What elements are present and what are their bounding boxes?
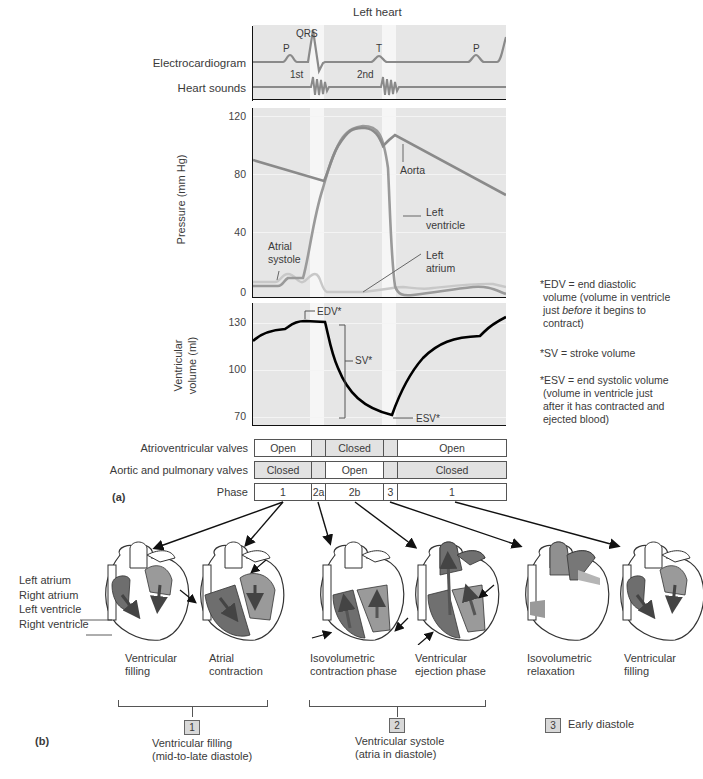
edv-note-line-1: *EDV = end diastolic — [540, 278, 703, 291]
panel-b-label: (b) — [35, 735, 49, 748]
phase-cell-1b: 1 — [398, 484, 506, 500]
bracket-stem-2 — [397, 707, 398, 717]
av-cell-phase2b: Closed — [326, 440, 384, 456]
bracket-stem-1 — [192, 707, 193, 717]
caption-isovolumetric-contraction: Isovolumetriccontraction phase — [310, 652, 397, 678]
heart-isovolumetric-relaxation — [526, 542, 609, 640]
phase-1-description: Ventricular filling(mid-to-late diastole… — [152, 737, 252, 763]
atrial-systole-label-2: systole — [268, 253, 301, 266]
caption-line: contraction phase — [310, 665, 397, 678]
bracket-phase-1 — [118, 700, 268, 707]
av-cell-phase2a — [312, 440, 326, 456]
volume-x-axis — [252, 425, 506, 426]
caption-line: relaxation — [527, 665, 592, 678]
esv-note-line-1: *ESV = end systolic volume — [540, 374, 703, 387]
volume-y-label-2: volume (ml) — [186, 326, 199, 406]
sl-cell-phase1b: Closed — [398, 462, 506, 478]
phase-3-description: Early diastole — [568, 718, 634, 731]
pressure-tick-80: 80 — [216, 168, 246, 180]
ecg-row-label: Electrocardiogram — [153, 57, 246, 70]
pressure-traces — [253, 108, 506, 297]
ecg-p2-wave-label: P — [473, 42, 480, 55]
caption-line: Ventricular — [415, 652, 486, 665]
phase-cell-2b: 2b — [326, 484, 384, 500]
heart-label-right-atrium: Right atrium — [19, 589, 78, 602]
phase-2-line-2: (atria in diastole) — [355, 748, 444, 761]
volume-trace — [253, 303, 506, 425]
ecg-qrs-label: QRS — [296, 27, 318, 40]
pressure-y-label: Pressure (mm Hg) — [175, 150, 188, 250]
caption-line: Atrial — [209, 652, 263, 665]
pressure-tick-120: 120 — [216, 110, 246, 122]
sl-cell-phase2b: Open — [326, 462, 384, 478]
sv-note: *SV = stroke volume — [540, 347, 703, 360]
esv-note: *ESV = end systolic volume (volume in ve… — [540, 374, 703, 426]
heart-ventricular-filling — [106, 542, 189, 640]
left-ventricle-label-1: Left — [426, 206, 444, 219]
sv-label: SV* — [355, 354, 372, 367]
phase-1-line-2: (mid-to-late diastole) — [152, 750, 252, 763]
phase-cell-2a: 2a — [312, 484, 326, 500]
caption-line: filling — [624, 665, 676, 678]
caption-line: ejection phase — [415, 665, 486, 678]
phase-cell-1: 1 — [255, 484, 312, 500]
sl-cell-phase2a — [312, 462, 326, 478]
caption-line: Isovolumetric — [527, 652, 592, 665]
av-valves-label: Atrioventricular valves — [140, 442, 248, 455]
edv-note-text: it begins to — [592, 304, 646, 316]
caption-line: contraction — [209, 665, 263, 678]
bracket-phase-2 — [309, 700, 486, 707]
phase-cell-3: 3 — [384, 484, 398, 500]
left-ventricle-label-2: ventricle — [426, 219, 465, 232]
volume-tick-70: 70 — [216, 410, 246, 422]
edv-note: *EDV = end diastolic volume (volume in v… — [540, 278, 703, 330]
heart-illustrations — [0, 540, 703, 645]
aorta-label: Aorta — [400, 164, 425, 177]
av-valves-row: Open Closed Open — [254, 439, 507, 457]
phase-2-description: Ventricular systole(atria in diastole) — [355, 735, 444, 761]
heart-label-left-ventricle: Left ventricle — [19, 603, 81, 616]
left-atrium-label-2: atrium — [426, 262, 455, 275]
esv-note-line-4: ejected blood) — [540, 413, 703, 426]
sl-cell-phase1: Closed — [255, 462, 312, 478]
caption-line: Ventricular — [624, 652, 676, 665]
heart-label-right-ventricle: Right ventricle — [19, 618, 89, 631]
av-cell-phase1b: Open — [398, 440, 506, 456]
esv-note-line-2: (volume in ventricle just — [540, 387, 703, 400]
phase-row: 1 2a 2b 3 1 — [254, 483, 507, 501]
ecg-traces — [253, 25, 506, 100]
edv-label: EDV* — [317, 305, 341, 318]
phase-1-line-1: Ventricular filling — [152, 737, 252, 750]
atrial-systole-label-1: Atrial — [268, 240, 292, 253]
caption-line: filling — [125, 665, 177, 678]
pressure-tick-0: 0 — [216, 286, 246, 298]
caption-atrial-contraction: Atrialcontraction — [209, 652, 263, 678]
edv-note-emphasis: before — [562, 304, 592, 316]
phase-box-3: 3 — [545, 718, 561, 733]
sl-cell-phase3 — [384, 462, 398, 478]
caption-ventricular-ejection: Ventricularejection phase — [415, 652, 486, 678]
caption-ventricular-filling-2: Ventricularfilling — [624, 652, 676, 678]
pressure-tick-40: 40 — [216, 226, 246, 238]
ecg-p-wave-label: P — [283, 42, 290, 55]
volume-y-label-1: Ventricular — [172, 326, 185, 406]
first-heart-sound-label: 1st — [290, 68, 303, 81]
second-heart-sound-label: 2nd — [357, 68, 374, 81]
heart-label-left-atrium: Left atrium — [19, 574, 71, 587]
caption-line: Isovolumetric — [310, 652, 397, 665]
phase-2-line-1: Ventricular systole — [355, 735, 444, 748]
esv-note-line-3: after it has contracted and — [540, 400, 703, 413]
edv-note-line-4: contract) — [540, 317, 703, 330]
heart-isovolumetric-contraction — [321, 542, 404, 640]
caption-isovolumetric-relaxation: Isovolumetricrelaxation — [527, 652, 592, 678]
edv-note-line-3: just before it begins to — [540, 304, 703, 317]
left-atrium-label-1: Left — [426, 249, 444, 262]
edv-note-text: just — [543, 304, 562, 316]
caption-ventricular-filling: Ventricularfilling — [125, 652, 177, 678]
esv-label: ESV* — [416, 412, 440, 425]
figure-title: Left heart — [353, 6, 402, 19]
volume-tick-130: 130 — [216, 316, 246, 328]
caption-line: Ventricular — [125, 652, 177, 665]
heart-ventricular-filling-2 — [621, 542, 703, 640]
edv-note-line-2: volume (volume in ventricle — [540, 291, 703, 304]
